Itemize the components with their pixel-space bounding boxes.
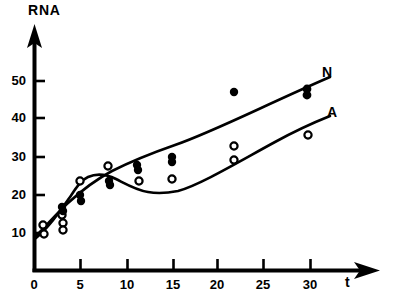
data-point-open <box>230 142 237 149</box>
data-point-filled <box>77 197 85 205</box>
x-tick-label-5: 5 <box>68 277 92 292</box>
curve-label-a: A <box>327 104 337 120</box>
series-a-points <box>39 131 311 237</box>
data-point-filled <box>134 166 142 174</box>
data-point-open <box>168 175 175 182</box>
y-tick-label-30: 30 <box>0 149 26 164</box>
y-tick-label-20: 20 <box>0 187 26 202</box>
data-point-filled <box>168 158 176 166</box>
x-tick-label-20: 20 <box>205 277 229 292</box>
data-point-open <box>76 177 83 184</box>
x-tick-label-30: 30 <box>298 277 322 292</box>
axis-group <box>27 24 380 279</box>
data-point-filled <box>106 181 114 189</box>
y-tick-label-10: 10 <box>0 225 26 240</box>
series-n-points <box>58 85 312 216</box>
data-point-filled <box>303 91 312 100</box>
y-tick-label-40: 40 <box>0 110 26 125</box>
x-tick-label-15: 15 <box>161 277 185 292</box>
x-tick-label-25: 25 <box>251 277 275 292</box>
curve-label-n: N <box>322 64 332 80</box>
fitted-curve-n <box>36 77 330 236</box>
data-point-open <box>135 177 142 184</box>
x-tick-label-0: 0 <box>22 277 46 292</box>
data-point-open <box>39 221 46 228</box>
data-point-open <box>59 226 66 233</box>
x-axis-title: t <box>345 274 350 290</box>
data-point-open <box>304 131 311 138</box>
x-tick-label-10: 10 <box>115 277 139 292</box>
data-point-open <box>40 230 47 237</box>
x-tick-marks <box>81 259 311 269</box>
data-point-filled <box>230 88 238 96</box>
data-point-open <box>104 162 111 169</box>
data-point-open <box>230 156 237 163</box>
y-axis-title: RNA <box>28 2 61 18</box>
chart-canvas <box>0 0 393 307</box>
data-point-filled <box>59 207 67 215</box>
y-tick-label-50: 50 <box>0 73 26 88</box>
rna-vs-time-figure: RNA t 50 40 30 20 10 0 5 10 15 20 25 30 … <box>0 0 393 307</box>
